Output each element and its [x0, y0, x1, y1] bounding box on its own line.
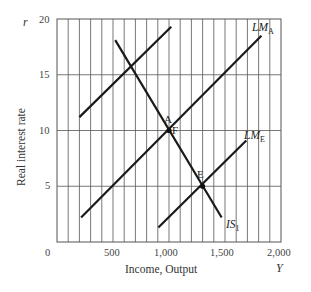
equilibrium-point-e-marker: [200, 184, 205, 189]
y-axis-title: Real interest rate: [15, 108, 27, 186]
y-tick-5: 5: [45, 180, 50, 191]
point-a-label: A: [164, 113, 172, 125]
x-axis-title: Income, Output: [125, 263, 198, 276]
x-tick-0: 0: [45, 247, 50, 258]
point-e-label: E: [197, 168, 204, 180]
x-tick-2000: 2,000: [267, 247, 291, 258]
y-variable-label: r: [23, 15, 28, 29]
x-tick-500: 500: [104, 247, 120, 258]
lm-a-curve-label: LMA: [251, 21, 274, 36]
is-curve-label: IS1: [225, 218, 240, 233]
y-tick-15: 15: [39, 69, 50, 80]
point-f-label: F: [172, 124, 178, 136]
x-variable-label: Y: [276, 261, 284, 275]
x-tick-1500: 1,500: [210, 247, 234, 258]
y-tick-10: 10: [39, 125, 50, 136]
is-lm-chart: r Y 20 15 10 5 0 500 1,000 1,500 2,000 I…: [0, 0, 311, 292]
y-tick-20: 20: [39, 14, 50, 25]
equilibrium-point-a-marker: [166, 128, 171, 133]
curves: [79, 27, 261, 228]
x-tick-1000: 1,000: [154, 247, 178, 258]
